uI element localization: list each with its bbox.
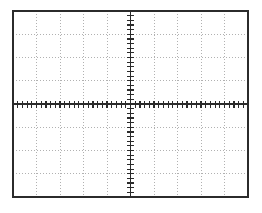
oscilloscope-graticule: [0, 0, 262, 213]
screenshot-root: [0, 0, 262, 213]
graticule-svg: [0, 0, 262, 213]
